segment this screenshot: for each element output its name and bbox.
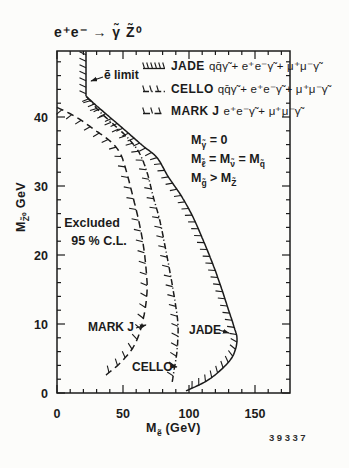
legend-name-cello: CELLO (171, 82, 214, 96)
excluded-label-line2: 95 % C.L. (71, 234, 127, 248)
curve-e-limit-hatching (80, 52, 87, 94)
svg-text:40: 40 (34, 111, 48, 125)
svg-text:20: 20 (34, 249, 48, 263)
y-tick-labels: 010203040 (34, 111, 48, 401)
selectron-limit-arrow (91, 77, 103, 81)
excluded-label-line1: Excluded (64, 216, 120, 230)
svg-text:100: 100 (179, 407, 200, 421)
curve-e-limit (80, 51, 87, 96)
legend-formula-markj: e⁺e⁻γ̃ + μ⁺μ⁻γ̃ (223, 104, 300, 118)
svg-text:0: 0 (41, 387, 48, 401)
legend-row-jade: JADE qq̄γ̃ + e⁺e⁻γ̃ + μ⁺μ⁻γ̃ (142, 55, 328, 78)
legend-formula-jade: qq̄γ̃ + e⁺e⁻γ̃ + μ⁺μ⁻γ̃ (209, 59, 319, 73)
assumption-slepton-mass: Mℓ̃ = Mν̃ = Mq̃ (191, 150, 265, 169)
assumptions-block: Mγ̃ = 0 Mℓ̃ = Mν̃ = Mq̃ Mg̃ > MZ̃ (191, 131, 265, 188)
markj-linestyle-icon (142, 105, 166, 117)
jade-linestyle-icon (142, 60, 166, 72)
legend: JADE qq̄γ̃ + e⁺e⁻γ̃ + μ⁺μ⁻γ̃ CELLO qq̄γ̃… (142, 55, 328, 123)
x-tick-labels: 050100150 (54, 407, 266, 421)
legend-row-cello: CELLO qq̄γ̃ + e⁺e⁻γ̃ + μ⁺μ⁻γ̃ (142, 78, 328, 101)
svg-text:10: 10 (34, 318, 48, 332)
jade-curve-label: JADE (189, 323, 221, 337)
legend-name-markj: MARK J (171, 104, 219, 118)
cello-curve-label: CELLO (132, 360, 173, 374)
selectron-limit-label: ẽ limit (104, 68, 139, 82)
assumption-gluino-mass: Mg̃ > MZ̃ (191, 169, 265, 188)
markj-curve-label: MARK J (88, 320, 134, 334)
legend-formula-cello: qq̄γ̃ + e⁺e⁻γ̃ + μ⁺μ⁻γ̃ (218, 82, 328, 96)
figure-number: 39337 (250, 432, 308, 443)
svg-text:150: 150 (245, 407, 266, 421)
figure-page: e⁺e⁻ → γ̃ Z̃⁰ 050100150010203040 Exclude… (0, 0, 349, 468)
svg-text:0: 0 (54, 407, 61, 421)
svg-text:30: 30 (34, 180, 48, 194)
svg-text:50: 50 (116, 407, 130, 421)
legend-name-jade: JADE (171, 59, 205, 73)
legend-row-markj: MARK J e⁺e⁻γ̃ + μ⁺μ⁻γ̃ (142, 100, 328, 123)
cello-linestyle-icon (142, 83, 166, 95)
assumption-photino-mass: Mγ̃ = 0 (191, 131, 265, 150)
y-axis-title: MZ̃⁰ GeV (14, 167, 30, 247)
